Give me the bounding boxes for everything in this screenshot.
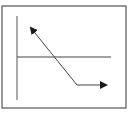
diagram-canvas	[0, 0, 137, 124]
